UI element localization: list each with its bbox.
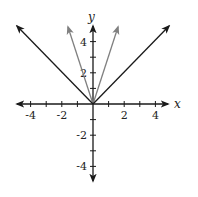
x-tick-label: -2 [56, 109, 67, 122]
x-tick-label: 4 [152, 109, 159, 122]
x-tick-label: 2 [121, 109, 128, 122]
y-axis-label: y [87, 10, 95, 24]
y-tick-label: 4 [80, 36, 87, 49]
y-tick-label: -4 [76, 160, 87, 173]
x-tick-label: -4 [25, 109, 36, 122]
y-tick-label: -2 [76, 129, 87, 142]
x-axis-label: x [174, 97, 181, 111]
coordinate-graph: -4 -2 2 4 4 2 -2 -4 x y [0, 0, 198, 197]
